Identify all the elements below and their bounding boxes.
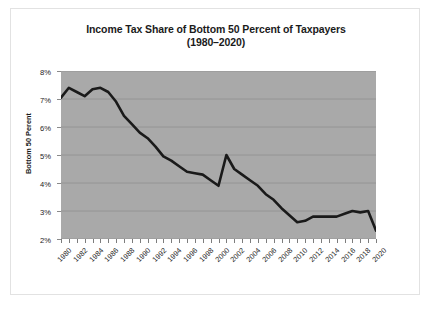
x-tick-mark-2020	[376, 239, 377, 243]
x-tick-mark-1985	[100, 239, 101, 243]
x-tick-mark-1994	[171, 239, 172, 243]
y-tick-label-2: 2%	[25, 236, 51, 245]
x-tick-mark-1997	[195, 239, 196, 243]
x-tick-mark-1988	[124, 239, 125, 243]
x-axis-tick-marks	[61, 239, 376, 244]
x-tick-mark-2011	[305, 239, 306, 243]
x-tick-mark-1998	[203, 239, 204, 243]
x-tick-mark-2019	[368, 239, 369, 243]
x-tick-mark-2005	[258, 239, 259, 243]
x-tick-mark-2013	[321, 239, 322, 243]
x-tick-mark-1993	[163, 239, 164, 243]
gridlines	[61, 71, 376, 239]
y-tick-label-4: 4%	[25, 180, 51, 189]
x-tick-mark-1981	[69, 239, 70, 243]
x-tick-mark-1991	[148, 239, 149, 243]
x-tick-mark-2017	[352, 239, 353, 243]
x-tick-mark-1986	[108, 239, 109, 243]
x-tick-mark-2000	[219, 239, 220, 243]
x-tick-mark-1980	[61, 239, 62, 243]
chart-title: Income Tax Share of Bottom 50 Percent of…	[11, 23, 421, 49]
x-tick-mark-2003	[242, 239, 243, 243]
x-tick-mark-2015	[337, 239, 338, 243]
x-tick-mark-2004	[250, 239, 251, 243]
x-tick-mark-2009	[289, 239, 290, 243]
x-tick-mark-2008	[282, 239, 283, 243]
x-tick-mark-1995	[179, 239, 180, 243]
x-tick-mark-1983	[85, 239, 86, 243]
x-tick-mark-2007	[274, 239, 275, 243]
y-tick-label-3: 3%	[25, 208, 51, 217]
x-tick-mark-2018	[360, 239, 361, 243]
x-tick-mark-2001	[226, 239, 227, 243]
x-tick-mark-1990	[140, 239, 141, 243]
chart-title-line-1: Income Tax Share of Bottom 50 Percent of…	[11, 23, 421, 36]
x-tick-mark-2012	[313, 239, 314, 243]
x-tick-mark-1992	[156, 239, 157, 243]
plot-area	[61, 71, 376, 239]
chart-canvas	[61, 71, 376, 239]
data-series-line	[61, 88, 376, 231]
x-tick-mark-2006	[266, 239, 267, 243]
x-tick-mark-1984	[93, 239, 94, 243]
x-tick-mark-1999	[211, 239, 212, 243]
chart-title-line-2: (1980–2020)	[11, 36, 421, 49]
chart-figure: Income Tax Share of Bottom 50 Percent of…	[10, 8, 420, 295]
y-tick-label-5: 5%	[25, 152, 51, 161]
x-tick-mark-1987	[116, 239, 117, 243]
x-tick-mark-2016	[345, 239, 346, 243]
y-tick-label-6: 6%	[25, 124, 51, 133]
y-tick-label-8: 8%	[25, 68, 51, 77]
x-tick-mark-1989	[132, 239, 133, 243]
x-tick-mark-1996	[187, 239, 188, 243]
y-tick-label-7: 7%	[25, 96, 51, 105]
x-tick-mark-2014	[329, 239, 330, 243]
y-axis-title: Bottom 50 Perent	[24, 99, 33, 189]
x-tick-mark-2010	[297, 239, 298, 243]
x-tick-mark-2002	[234, 239, 235, 243]
x-tick-mark-1982	[77, 239, 78, 243]
